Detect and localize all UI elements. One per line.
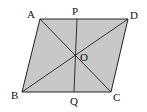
label-Q: Q [70, 95, 78, 107]
label-O: O [80, 51, 88, 63]
label-P: P [72, 5, 78, 17]
parallelogram-diagram: A P D O B Q C [0, 0, 147, 112]
label-A: A [27, 8, 35, 20]
label-B: B [11, 89, 18, 101]
label-D: D [130, 9, 138, 21]
label-C: C [113, 91, 120, 103]
